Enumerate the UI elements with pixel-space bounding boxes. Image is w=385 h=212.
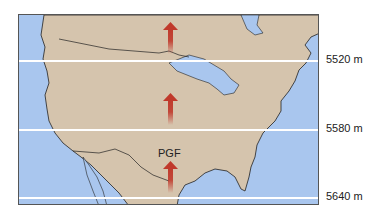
contour-line-5520 bbox=[19, 60, 319, 62]
contour-label-5640: 5640 m bbox=[326, 190, 363, 202]
contour-label-5580: 5580 m bbox=[326, 122, 363, 134]
pgf-label: PGF bbox=[158, 147, 181, 159]
north-america-map bbox=[19, 15, 319, 205]
contour-label-5520: 5520 m bbox=[326, 53, 363, 65]
contour-line-5640 bbox=[19, 197, 319, 199]
map-frame bbox=[18, 14, 319, 205]
contour-line-5580 bbox=[19, 129, 319, 131]
